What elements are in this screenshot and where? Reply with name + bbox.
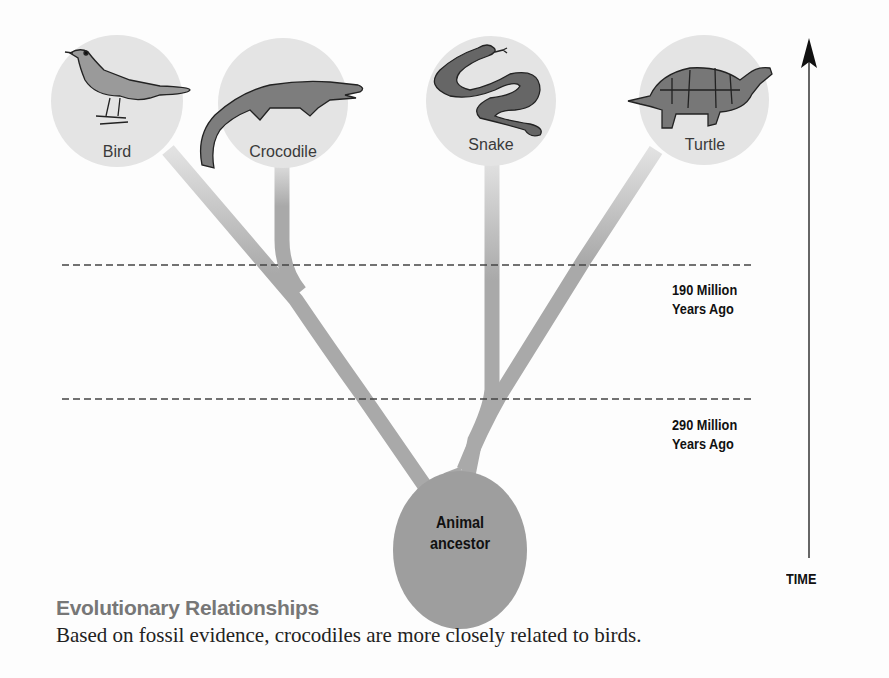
evolution-diagram	[0, 0, 889, 678]
taxon-label-crocodile: Crocodile	[238, 143, 328, 161]
branches	[168, 150, 656, 505]
branch-crocodile	[282, 160, 300, 292]
branch-bird	[168, 150, 438, 505]
caption-title: Evolutionary Relationships	[56, 596, 319, 620]
caption-text: Based on fossil evidence, crocodiles are…	[56, 622, 776, 649]
taxon-label-turtle: Turtle	[670, 136, 740, 154]
taxon-label-bird: Bird	[92, 143, 142, 161]
ancestor-label: Animal ancestor	[403, 512, 517, 554]
time-marker-290: 290 Million Years Ago	[672, 415, 737, 453]
taxon-label-snake: Snake	[456, 136, 526, 154]
time-marker-190: 190 Million Years Ago	[672, 280, 737, 318]
time-axis-label: TIME	[786, 570, 816, 587]
